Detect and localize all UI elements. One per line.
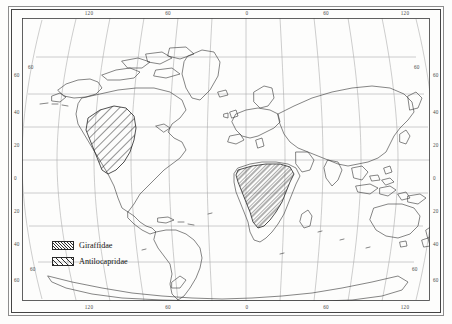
interior-corner-label-nw: 60 [28,64,34,70]
axis-tick-right-5: 40 [433,241,439,247]
interior-corner-label-ne: 60 [414,64,420,70]
legend-item-giraffidae: Giraffidae [52,238,170,252]
axis-tick-left-1: 40 [14,109,20,115]
axis-tick-bottom-3: 60 [323,304,329,310]
map-legend: Giraffidae Antilocapridae [52,238,170,270]
legend-swatch-giraffidae [52,241,74,250]
axis-tick-right-4: 20 [433,208,439,214]
axis-tick-bottom-2: 0 [246,304,249,310]
axis-tick-left-0: 60 [14,72,20,78]
map-plot-area: 60 60 60 60 Giraffidae Antilocapridae [22,18,430,301]
axis-tick-bottom-4: 120 [401,304,409,310]
axis-tick-right-2: 20 [433,142,439,148]
range-giraffidae [236,164,294,228]
interior-corner-label-sw: 60 [30,266,36,272]
legend-label-antilocapridae: Antilocapridae [79,257,128,266]
axis-tick-top-4: 120 [401,10,409,16]
axis-tick-top-3: 60 [323,10,329,16]
legend-item-antilocapridae: Antilocapridae [52,254,170,268]
range-antilocapridae [86,106,136,174]
axis-tick-left-4: 20 [14,208,20,214]
axis-tick-bottom-0: 120 [85,304,93,310]
axis-tick-right-1: 40 [433,109,439,115]
axis-tick-left-2: 20 [14,142,20,148]
axis-tick-top-1: 60 [165,10,171,16]
axis-tick-right-3: 0 [433,175,436,181]
axis-tick-left-3: 0 [14,175,17,181]
axis-tick-left-5: 40 [14,241,20,247]
interior-corner-label-se: 60 [412,266,418,272]
axis-tick-right-0: 60 [433,72,439,78]
axis-tick-bottom-1: 60 [165,304,171,310]
legend-swatch-antilocapridae [52,257,74,266]
axis-tick-left-6: 60 [14,277,20,283]
graticule-parallels [22,57,430,262]
axis-tick-right-6: 60 [433,277,439,283]
figure-canvas: 60 60 60 60 Giraffidae Antilocapridae 12… [0,0,452,324]
axis-tick-top-2: 0 [246,10,249,16]
axis-tick-top-0: 120 [85,10,93,16]
legend-label-giraffidae: Giraffidae [79,241,113,250]
